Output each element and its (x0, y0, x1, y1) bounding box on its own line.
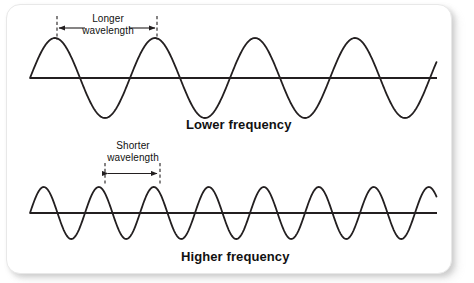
wave-diagram-canvas (0, 0, 474, 283)
shorter-wavelength-measure (105, 163, 160, 184)
lower-frequency-wave-group (30, 38, 437, 118)
higher-frequency-wave-group (30, 187, 437, 239)
shorter-wavelength-label-line2: wavelength (83, 152, 183, 164)
wave-frequency-figure: Longer wavelength Shorter wavelength Low… (0, 0, 474, 283)
shorter-wavelength-label-line1: Shorter (83, 140, 183, 152)
shorter-wavelength-label: Shorter wavelength (83, 140, 183, 164)
wave-svg (0, 0, 474, 283)
lower-frequency-label: Lower frequency (186, 117, 292, 132)
longer-wavelength-label: Longer wavelength (58, 13, 158, 37)
longer-wavelength-label-line2: wavelength (58, 25, 158, 37)
higher-frequency-label: Higher frequency (181, 249, 290, 264)
longer-wavelength-label-line1: Longer (58, 13, 158, 25)
